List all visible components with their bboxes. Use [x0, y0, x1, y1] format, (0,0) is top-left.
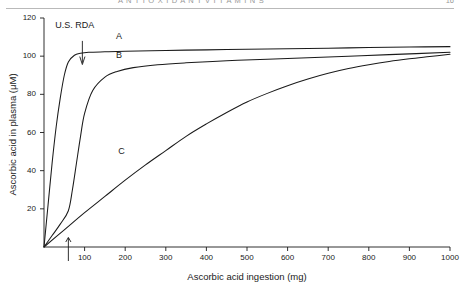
- x-tick-label: 200: [110, 253, 140, 262]
- x-axis-title: Ascorbic acid ingestion (mg): [44, 271, 450, 282]
- curve-c: [44, 54, 450, 247]
- x-tick-label: 900: [394, 253, 424, 262]
- y-tick-label: 80: [12, 89, 36, 98]
- x-tick-label: 1000: [435, 253, 460, 262]
- x-tick-label: 100: [70, 253, 100, 262]
- curve-label-b: B: [116, 50, 122, 60]
- y-tick-label: 60: [12, 128, 36, 137]
- chart-figure: Ascorbic acid in plasma (μM) Ascorbic ac…: [0, 9, 460, 293]
- x-tick-label: 600: [273, 253, 303, 262]
- x-tick-label: 800: [354, 253, 384, 262]
- curve-label-c: C: [118, 146, 125, 156]
- curve-b: [44, 52, 450, 247]
- y-tick-label: 100: [12, 51, 36, 60]
- running-head-title: A N T I O X I D A N T V I T A M I N S: [118, 0, 264, 5]
- y-tick-label: 120: [12, 13, 36, 22]
- x-tick-label: 700: [313, 253, 343, 262]
- page-number: 16: [446, 0, 454, 5]
- curve-label-a: A: [116, 31, 122, 41]
- x-tick-label: 300: [151, 253, 181, 262]
- curves-group: [44, 47, 450, 247]
- plot-area: [0, 9, 460, 293]
- us-rda-annotation-label: U.S. RDA: [55, 20, 94, 30]
- x-tick-label: 500: [232, 253, 262, 262]
- figure-page: A N T I O X I D A N T V I T A M I N S 16…: [0, 0, 460, 293]
- tick-marks-group: [40, 18, 450, 251]
- x-tick-label: 400: [191, 253, 221, 262]
- axes-group: [44, 18, 450, 247]
- y-tick-label: 40: [12, 166, 36, 175]
- annotation-arrows-group: [66, 41, 85, 261]
- y-tick-label: 20: [12, 204, 36, 213]
